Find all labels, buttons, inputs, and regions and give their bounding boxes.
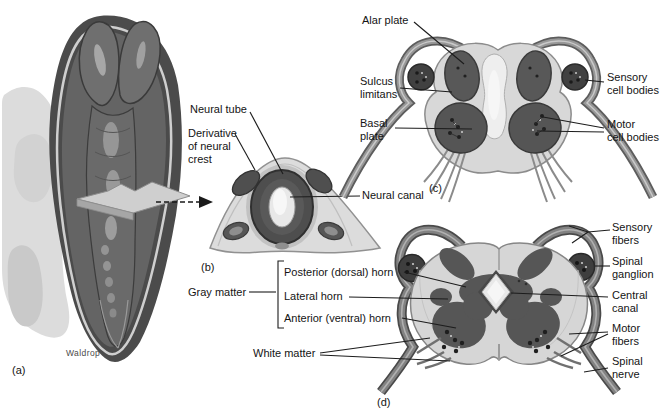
label-spinal-nerve: Spinal nerve [612,355,643,381]
label-motor-fibers: Motor fibers [612,322,640,348]
label-neural-tube: Neural tube [190,103,247,116]
label-central-canal: Central canal [612,289,647,315]
mature-cord-art [381,230,617,392]
label-motor-cell-bodies: Motor cell bodies [607,118,659,144]
label-spinal-ganglion: Spinal ganglion [612,255,654,281]
panel-tag-b: (b) [201,261,214,273]
label-gray-matter: Gray matter [188,286,246,299]
panel-tag-d: (d) [377,396,390,408]
label-neural-canal: Neural canal [362,189,424,202]
illustrator-credit: Waldrop [66,348,100,358]
label-white-matter: White matter [253,347,315,360]
panel-tag-c: (c) [429,182,442,194]
label-posterior-dorsal-horn: Posterior (dorsal) horn [284,266,393,279]
spinal-ganglion-early-right [562,64,588,90]
label-neural-crest-derivative: Derivative of neural crest [188,127,237,166]
spinal-ganglion-early-left [408,64,434,90]
notochord [275,243,289,250]
label-sensory-cell-bodies: Sensory cell bodies [607,71,659,97]
label-sulcus-limitans: Sulcus limitans [360,75,397,101]
figure-neural-tube-development: Neural tube Derivative of neural crest N… [0,0,667,416]
label-alar-plate: Alar plate [362,14,408,27]
label-lateral-horn: Lateral horn [284,290,343,303]
label-sensory-fibers: Sensory fibers [612,221,652,247]
label-basal-plate: Basal plate [360,117,388,143]
label-anterior-ventral-horn: Anterior (ventral) horn [284,312,391,325]
panel-tag-a: (a) [12,364,25,376]
